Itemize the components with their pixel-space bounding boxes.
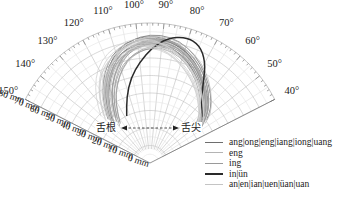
legend-label: ing	[229, 158, 241, 169]
legend-swatch	[205, 142, 223, 143]
legend-item: eng	[205, 148, 332, 159]
angle-tick-label: 100°	[124, 0, 144, 10]
angle-tick-label: 50°	[267, 58, 282, 69]
legend-item: in|ün	[205, 169, 332, 180]
angle-tick-label: 60°	[245, 35, 260, 46]
legend-label: in|ün	[229, 169, 248, 180]
legend-swatch	[205, 173, 223, 175]
legend-item: ang|ong|eng|iang|iong|uang	[205, 137, 332, 148]
legend-label: an|en|ian|uen|üan|uan	[229, 179, 309, 190]
legend-swatch	[205, 163, 223, 164]
tongue-root-label: 舌根	[95, 122, 117, 133]
angle-tick-label: 70°	[219, 17, 234, 28]
legend-item: ing	[205, 158, 332, 169]
angle-tick-label: 80°	[190, 5, 205, 16]
legend-label: eng	[229, 148, 243, 159]
angle-tick-label: 130°	[38, 35, 58, 46]
legend-swatch	[205, 184, 223, 185]
angle-tick-label: 90°	[159, 0, 174, 10]
legend-item: an|en|ian|uen|üan|uan	[205, 179, 332, 190]
legend-swatch	[205, 152, 223, 153]
legend: ang|ong|eng|iang|iong|uang eng ing in|ün…	[205, 137, 332, 190]
legend-label: ang|ong|eng|iang|iong|uang	[229, 137, 332, 148]
angle-tick-label: 120°	[64, 17, 84, 28]
angle-tick-label: 40°	[285, 85, 300, 96]
tongue-tip-label: 舌尖	[180, 122, 202, 133]
angle-tick-label: 110°	[93, 5, 113, 16]
angle-tick-label: 140°	[15, 58, 35, 69]
